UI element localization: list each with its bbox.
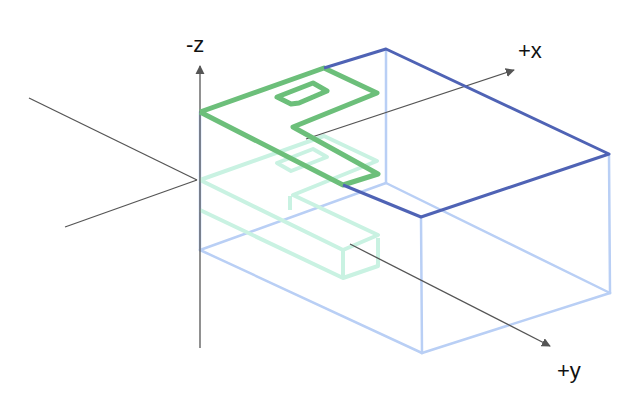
y-axis-neg bbox=[65, 180, 197, 227]
isometric-diagram: -z +x +y bbox=[0, 0, 640, 411]
y-axis bbox=[350, 244, 550, 346]
neg-z-label: -z bbox=[186, 32, 204, 57]
top-path bbox=[200, 68, 378, 185]
box-hidden-edges bbox=[200, 49, 610, 353]
pos-y-label: +y bbox=[557, 358, 581, 383]
box-top-edges bbox=[324, 49, 609, 217]
x-axis-neg bbox=[29, 98, 197, 180]
pos-x-label: +x bbox=[518, 38, 542, 63]
x-axis bbox=[306, 70, 514, 139]
